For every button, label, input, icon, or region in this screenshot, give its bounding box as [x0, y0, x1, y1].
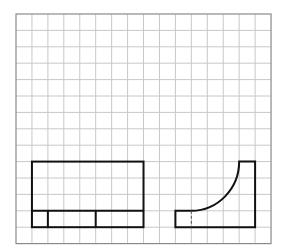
- drawing-canvas: [0, 0, 286, 250]
